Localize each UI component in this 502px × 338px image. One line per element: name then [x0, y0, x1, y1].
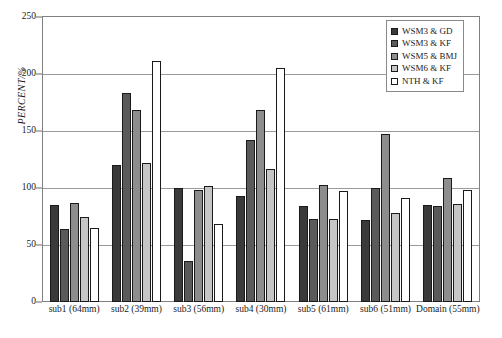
bar: [112, 165, 121, 302]
bar: [319, 185, 328, 302]
legend-swatch-icon: [391, 78, 398, 85]
legend-label: WSM6 & KF: [402, 64, 451, 73]
legend-item: WSM3 & GD: [391, 26, 457, 37]
bar: [309, 219, 318, 302]
x-axis-tick-label: sub1 (64mm): [49, 304, 100, 315]
x-axis-tick-label: sub3 (56mm): [173, 304, 224, 315]
y-axis-tick-label: 50: [27, 240, 37, 250]
legend-label: WSM3 & KF: [402, 39, 451, 48]
bar: [152, 61, 161, 302]
bar: [214, 224, 223, 302]
bar-group: [230, 17, 292, 302]
bar: [381, 134, 390, 302]
bar: [339, 191, 348, 302]
bar: [204, 186, 213, 302]
x-axis-tick-label: sub2 (39mm): [111, 304, 162, 315]
y-axis: PERCENT/% 050100150200250: [0, 0, 42, 318]
legend-label: WSM5 & BMJ: [402, 52, 457, 61]
bar: [453, 204, 462, 302]
bar: [256, 110, 265, 302]
legend-item: WSM3 & KF: [391, 38, 457, 49]
bar: [371, 188, 380, 302]
y-axis-tick-label: 200: [22, 69, 36, 79]
legend-item: WSM6 & KF: [391, 63, 457, 74]
y-axis-tick-label: 150: [22, 126, 36, 136]
bar: [80, 217, 89, 303]
bar-group: [105, 17, 167, 302]
bar: [329, 219, 338, 302]
bar: [90, 228, 99, 302]
bar: [423, 205, 432, 302]
bar: [184, 261, 193, 302]
bar: [443, 178, 452, 302]
x-axis-tick-label: Domain (55mm): [416, 304, 480, 315]
bar: [132, 110, 141, 302]
bar: [463, 190, 472, 302]
x-axis-tick-label: sub6 (51mm): [360, 304, 411, 315]
y-axis-tick-label: 250: [22, 12, 36, 22]
bar: [266, 169, 275, 302]
bar: [276, 68, 285, 302]
bar-group: [292, 17, 354, 302]
legend-swatch-icon: [391, 65, 398, 72]
y-axis-title: PERCENT/%: [16, 31, 27, 161]
legend-item: WSM5 & BMJ: [391, 51, 457, 62]
legend-label: NTH & KF: [402, 77, 444, 86]
bar: [174, 188, 183, 302]
bar: [391, 213, 400, 302]
x-axis: sub1 (64mm)sub2 (39mm)sub3 (56mm)sub4 (3…: [43, 304, 479, 324]
bar-chart-figure: PERCENT/% 050100150200250 sub1 (64mm)sub…: [0, 0, 502, 338]
legend-swatch-icon: [391, 28, 398, 35]
bar-group: [43, 17, 105, 302]
bar-group: [168, 17, 230, 302]
chart-legend: WSM3 & GDWSM3 & KFWSM5 & BMJWSM6 & KFNTH…: [386, 20, 464, 92]
bar: [194, 190, 203, 302]
legend-label: WSM3 & GD: [402, 27, 453, 36]
bar: [236, 196, 245, 302]
legend-swatch-icon: [391, 53, 398, 60]
legend-swatch-icon: [391, 40, 398, 47]
x-axis-tick-label: sub4 (30mm): [236, 304, 287, 315]
x-axis-tick-label: sub5 (61mm): [298, 304, 349, 315]
bar: [122, 93, 131, 302]
legend-item: NTH & KF: [391, 76, 457, 87]
bar: [50, 205, 59, 302]
bar: [401, 198, 410, 302]
bar: [60, 229, 69, 302]
bar: [361, 220, 370, 302]
y-axis-tick-label: 100: [22, 183, 36, 193]
bar: [246, 140, 255, 302]
bar: [142, 163, 151, 302]
bar: [299, 206, 308, 302]
bar: [433, 206, 442, 302]
bar: [70, 203, 79, 302]
